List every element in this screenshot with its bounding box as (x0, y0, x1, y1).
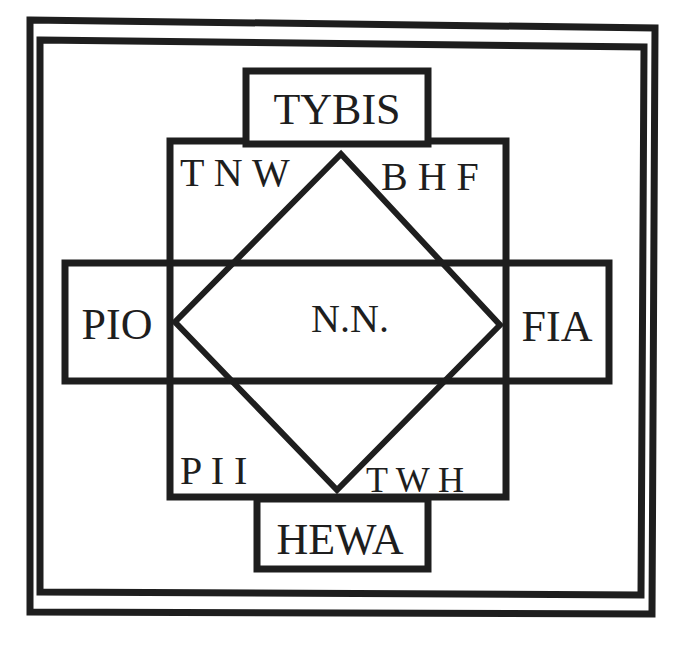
corner-top-left-label: T N W (180, 150, 290, 195)
left-box-label: PIO (82, 300, 153, 349)
bottom-box-label: HEWA (276, 515, 403, 564)
corner-top-right-label: B H F (381, 154, 479, 199)
diagram-canvas: TYBIS PIO FIA HEWA N.N. T N W B H F P I … (0, 0, 677, 646)
top-box-label: TYBIS (273, 85, 400, 134)
corner-bottom-right-label: T W H (366, 460, 464, 500)
center-label: N.N. (311, 296, 389, 341)
right-box-label: FIA (522, 302, 593, 351)
corner-bottom-left-label: P I I (180, 448, 247, 493)
